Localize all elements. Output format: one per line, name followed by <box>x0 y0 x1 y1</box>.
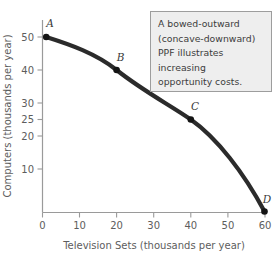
point-label-c: C <box>191 100 199 112</box>
x-axis-tick-labels: 0 10 20 30 40 50 60 <box>39 220 271 231</box>
y-tick-label-25: 25 <box>21 114 34 125</box>
data-point-c <box>188 116 195 123</box>
x-axis-ticks <box>43 213 266 218</box>
y-tick-label-20: 20 <box>21 131 34 142</box>
annotation-callout-text: A bowed-outward (concave-downward) PPF i… <box>158 17 265 90</box>
data-point-d <box>261 208 268 215</box>
y-tick-label-50: 50 <box>21 32 34 43</box>
point-label-a: A <box>45 17 54 29</box>
x-tick-label-30: 30 <box>147 220 160 231</box>
point-label-d: D <box>262 193 272 205</box>
y-axis-tick-labels: 50 40 30 25 20 10 <box>21 32 34 175</box>
y-tick-label-40: 40 <box>21 65 34 76</box>
x-tick-label-60: 60 <box>259 220 272 231</box>
x-tick-label-10: 10 <box>73 220 86 231</box>
x-axis-title: Television Sets (thousands per year) <box>62 240 245 251</box>
ppf-chart-figure: 50 40 30 25 20 10 0 10 20 30 40 50 60 <box>0 0 276 259</box>
x-tick-label-40: 40 <box>184 220 197 231</box>
x-tick-label-0: 0 <box>39 220 45 231</box>
y-tick-label-10: 10 <box>21 164 34 175</box>
x-tick-label-50: 50 <box>222 220 235 231</box>
y-tick-label-30: 30 <box>21 98 34 109</box>
y-axis-ticks <box>38 37 43 169</box>
data-point-a <box>43 34 50 41</box>
x-tick-label-20: 20 <box>110 220 123 231</box>
y-axis-title: Computers (thousands per year) <box>2 34 13 197</box>
data-point-b <box>113 67 120 74</box>
point-label-b: B <box>116 51 125 63</box>
annotation-callout-box: A bowed-outward (concave-downward) PPF i… <box>150 11 272 92</box>
